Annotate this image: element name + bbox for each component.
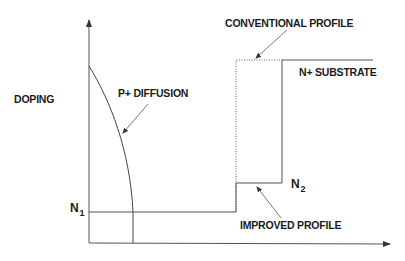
n1-label: N1 [70, 201, 84, 215]
n2-label: N2 [291, 177, 305, 191]
conventional-profile-leader [256, 30, 287, 58]
x-axis [89, 243, 390, 244]
n-substrate-label: N+ SUBSTRATE [299, 66, 377, 78]
conventional-profile-label: CONVENTIONAL PROFILE [225, 17, 353, 29]
conventional-profile-line [236, 60, 283, 212]
n2-subscript: 2 [300, 184, 305, 194]
p-diffusion-leader [123, 104, 148, 133]
p-diffusion-label: P+ DIFFUSION [118, 87, 188, 99]
n1-base: N [70, 201, 78, 215]
improved-profile-leader [257, 187, 281, 218]
n1-subscript: 1 [79, 208, 84, 218]
y-axis-label: DOPING [14, 93, 54, 105]
doping-profile-diagram: DOPING P+ DIFFUSION CONVENTIONAL PROFILE… [0, 0, 405, 261]
diagram-canvas [0, 0, 405, 261]
improved-profile-label: IMPROVED PROFILE [240, 219, 341, 231]
n2-base: N [291, 177, 299, 191]
